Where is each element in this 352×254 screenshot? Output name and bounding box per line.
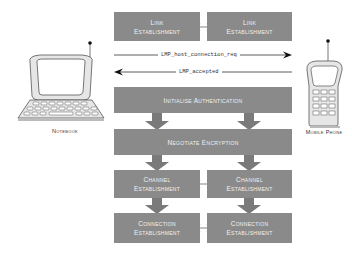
notebook-label: Notebook xyxy=(40,128,90,134)
down-arrow-icon xyxy=(145,198,169,214)
connection-establishment-notebook: Connection Establishment xyxy=(114,213,200,243)
box-label-line: Establishment xyxy=(134,27,180,36)
link-establishment-notebook: Link Establishment xyxy=(114,12,200,41)
request-message-label: LMP_host_connection_req xyxy=(158,51,240,58)
initialise-authentication-box: Initialise Authentication xyxy=(114,87,292,113)
down-arrow-icon xyxy=(145,155,169,171)
mobile-phone-label: Mobile Phone xyxy=(296,129,352,135)
box-label-line: Establishment xyxy=(226,27,272,36)
down-arrow-icon xyxy=(237,113,261,130)
down-arrow-icon xyxy=(145,113,169,130)
channel-establishment-notebook: Channel Establishment xyxy=(114,170,200,198)
box-label-line: Connection xyxy=(231,219,269,228)
response-message-label: LMP_accepted xyxy=(176,68,222,75)
box-label: Initialise Authentication xyxy=(164,96,243,105)
mobile-phone-icon xyxy=(307,39,342,128)
box-label-line: Establishment xyxy=(226,228,272,237)
box-label-line: Link xyxy=(150,18,163,27)
channel-establishment-phone: Channel Establishment xyxy=(207,170,292,198)
box-label-line: Link xyxy=(243,18,256,27)
box-label: Negotiate Encryption xyxy=(167,138,238,147)
box-label-line: Establishment xyxy=(226,184,272,193)
negotiate-encryption-box: Negotiate Encryption xyxy=(114,129,292,155)
box-label-line: Establishment xyxy=(134,228,180,237)
notebook-icon xyxy=(18,41,104,121)
down-arrow-icon xyxy=(237,155,261,171)
box-label-line: Channel xyxy=(236,175,263,184)
down-arrow-icon xyxy=(237,198,261,214)
connection-establishment-phone: Connection Establishment xyxy=(207,213,292,243)
box-label-line: Channel xyxy=(143,175,170,184)
box-label-line: Connection xyxy=(138,219,176,228)
box-label-line: Establishment xyxy=(134,184,180,193)
link-establishment-phone: Link Establishment xyxy=(207,12,292,41)
